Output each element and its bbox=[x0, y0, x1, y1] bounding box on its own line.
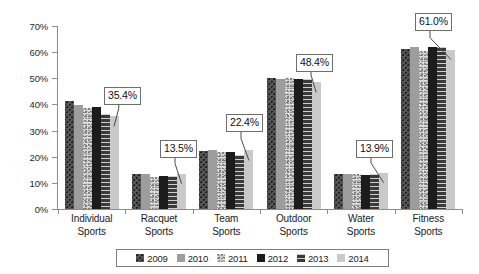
category-label-line: Sports bbox=[193, 226, 260, 239]
y-axis-tick bbox=[52, 157, 57, 158]
y-axis-label: 50% bbox=[30, 73, 48, 84]
bar bbox=[276, 79, 285, 209]
bar bbox=[65, 101, 74, 209]
y-axis-tick bbox=[52, 104, 57, 105]
y-axis-label: 0% bbox=[35, 204, 48, 215]
bar bbox=[74, 105, 83, 209]
bar bbox=[83, 108, 92, 209]
bar bbox=[446, 50, 455, 209]
category-label-line: Sports bbox=[260, 226, 327, 239]
category-label: RacquetSports bbox=[125, 213, 192, 238]
category-label-line: Sports bbox=[58, 226, 125, 239]
category-label: IndividualSports bbox=[58, 213, 125, 238]
legend-label: 2012 bbox=[268, 253, 288, 264]
bar bbox=[159, 176, 168, 209]
value-callout: 48.4% bbox=[296, 54, 333, 72]
chart-legend: 200920102011201220132014 bbox=[116, 249, 389, 267]
legend-label: 2014 bbox=[348, 253, 368, 264]
y-axis-label: 10% bbox=[30, 177, 48, 188]
bar bbox=[208, 150, 217, 209]
y-axis-tick bbox=[52, 131, 57, 132]
bar bbox=[101, 114, 110, 209]
value-callout: 35.4% bbox=[104, 87, 141, 105]
legend-label: 2009 bbox=[147, 253, 167, 264]
bar bbox=[267, 78, 276, 209]
y-axis-tick bbox=[52, 52, 57, 53]
y-axis-label: 40% bbox=[30, 99, 48, 110]
value-callout: 61.0% bbox=[415, 13, 452, 31]
bar bbox=[226, 152, 235, 209]
value-callout: 22.4% bbox=[226, 114, 263, 132]
y-axis-tick bbox=[52, 209, 57, 210]
legend-item: 2010 bbox=[177, 253, 208, 264]
category-label: OutdoorSports bbox=[260, 213, 327, 238]
legend-swatch bbox=[217, 254, 225, 262]
category-label-line: Water bbox=[327, 213, 394, 226]
category-label-line: Individual bbox=[58, 213, 125, 226]
category-label-line: Outdoor bbox=[260, 213, 327, 226]
y-axis-label: 30% bbox=[30, 125, 48, 136]
category-label: WaterSports bbox=[327, 213, 394, 238]
y-axis-label: 60% bbox=[30, 47, 48, 58]
bar bbox=[150, 177, 159, 209]
grouped-bar-chart: 0%10%20%30%40%50%60%70% IndividualSports… bbox=[0, 0, 479, 274]
y-axis-tick bbox=[52, 78, 57, 79]
legend-item: 2011 bbox=[217, 253, 248, 264]
category-label-line: Fitness bbox=[395, 213, 462, 226]
legend-label: 2013 bbox=[308, 253, 328, 264]
legend-item: 2009 bbox=[136, 253, 167, 264]
y-axis-label: 20% bbox=[30, 151, 48, 162]
legend-item: 2014 bbox=[337, 253, 368, 264]
legend-item: 2012 bbox=[257, 253, 288, 264]
legend-swatch bbox=[297, 254, 305, 262]
category-label-line: Team bbox=[193, 213, 260, 226]
legend-label: 2011 bbox=[228, 253, 248, 264]
category-label-line: Sports bbox=[395, 226, 462, 239]
y-axis-tick bbox=[52, 183, 57, 184]
bar bbox=[217, 152, 226, 210]
bar bbox=[428, 47, 437, 209]
bar bbox=[410, 47, 419, 209]
bar bbox=[199, 151, 208, 209]
legend-swatch bbox=[257, 254, 265, 262]
bar bbox=[419, 51, 428, 209]
legend-swatch bbox=[337, 254, 345, 262]
bar bbox=[343, 174, 352, 209]
bar bbox=[132, 174, 141, 209]
bar bbox=[401, 49, 410, 209]
legend-swatch bbox=[136, 254, 144, 262]
category-label-line: Sports bbox=[125, 226, 192, 239]
legend-label: 2010 bbox=[188, 253, 208, 264]
bar bbox=[141, 174, 150, 209]
bar bbox=[92, 107, 101, 209]
category-label: TeamSports bbox=[193, 213, 260, 238]
bar bbox=[285, 78, 294, 209]
y-axis-label: 70% bbox=[30, 21, 48, 32]
category-label: FitnessSports bbox=[395, 213, 462, 238]
legend-swatch bbox=[177, 254, 185, 262]
value-callout: 13.5% bbox=[160, 140, 197, 158]
y-axis-tick bbox=[52, 26, 57, 27]
bar bbox=[437, 47, 446, 209]
bar bbox=[312, 82, 321, 209]
category-label-line: Sports bbox=[327, 226, 394, 239]
bar bbox=[352, 174, 361, 209]
bar bbox=[294, 79, 303, 209]
x-axis-separator bbox=[462, 209, 463, 214]
value-callout: 13.9% bbox=[356, 140, 393, 158]
bar bbox=[334, 174, 343, 209]
category-label-line: Racquet bbox=[125, 213, 192, 226]
legend-item: 2013 bbox=[297, 253, 328, 264]
